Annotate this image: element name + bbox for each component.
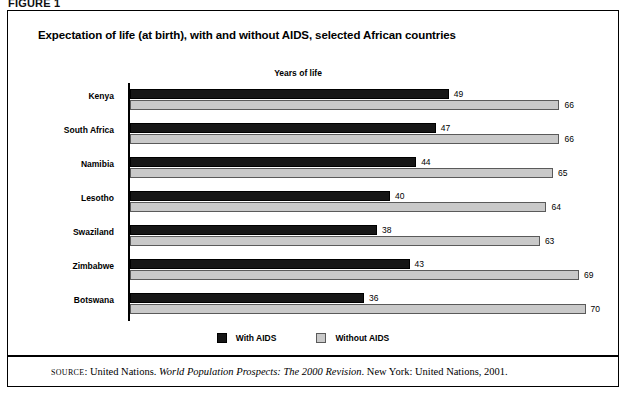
bar-row-with-aids: 38: [130, 225, 610, 235]
country-label: South Africa: [64, 125, 114, 135]
bar-row-without-aids: 65: [130, 168, 610, 178]
bar-value-label: 69: [584, 270, 593, 280]
bar-value-label: 66: [564, 134, 573, 144]
bar-value-label: 43: [415, 259, 424, 269]
source-publisher-lead: United Nations.: [90, 366, 159, 377]
country-bar-group: Swaziland3863: [128, 225, 608, 249]
bar-without-aids[interactable]: 65: [130, 168, 553, 178]
bar-without-aids[interactable]: 66: [130, 134, 560, 144]
bar-without-aids[interactable]: 66: [130, 100, 560, 110]
country-label: Kenya: [88, 91, 114, 101]
source-note: SOURCE: United Nations. World Population…: [51, 366, 508, 377]
bar-row-with-aids: 44: [130, 157, 610, 167]
source-label: SOURCE: [51, 368, 84, 377]
country-bar-group: Zimbabwe4369: [128, 259, 608, 283]
bar-row-with-aids: 49: [130, 89, 610, 99]
country-bar-group: South Africa4766: [128, 123, 608, 147]
bar-with-aids[interactable]: 40: [130, 191, 391, 201]
bar-row-without-aids: 64: [130, 202, 610, 212]
bar-row-without-aids: 70: [130, 304, 610, 314]
country-label: Namibia: [81, 159, 114, 169]
country-bar-group: Kenya4966: [128, 89, 608, 113]
legend-swatch-icon: [316, 333, 326, 343]
bar-value-label: 65: [558, 168, 567, 178]
bar-with-aids[interactable]: 36: [130, 293, 365, 303]
source-divider: [8, 355, 618, 357]
bar-row-without-aids: 69: [130, 270, 610, 280]
country-label: Swaziland: [73, 227, 114, 237]
figure-frame: Expectation of life (at birth), with and…: [7, 10, 619, 387]
bar-with-aids[interactable]: 47: [130, 123, 436, 133]
bar-with-aids[interactable]: 44: [130, 157, 417, 167]
legend-entry-with-aids[interactable]: With AIDS: [217, 333, 277, 343]
legend-entry-without-aids[interactable]: Without AIDS: [316, 333, 389, 343]
bar-with-aids[interactable]: 38: [130, 225, 378, 235]
bar-value-label: 36: [369, 293, 378, 303]
country-label: Zimbabwe: [72, 261, 114, 271]
bar-without-aids[interactable]: 64: [130, 202, 547, 212]
source-work-title: World Population Prospects: The 2000 Rev…: [159, 366, 362, 377]
country-bar-group: Botswana3670: [128, 293, 608, 317]
bar-row-with-aids: 36: [130, 293, 610, 303]
axis-caption: Years of life: [0, 68, 603, 78]
legend-swatch-icon: [217, 333, 227, 343]
bar-without-aids[interactable]: 69: [130, 270, 579, 280]
chart-title: Expectation of life (at birth), with and…: [38, 29, 456, 41]
bar-value-label: 64: [551, 202, 560, 212]
bar-row-without-aids: 66: [130, 134, 610, 144]
bar-row-with-aids: 40: [130, 191, 610, 201]
figure-number-label: FIGURE 1: [8, 0, 60, 9]
bar-value-label: 70: [591, 304, 600, 314]
bar-value-label: 38: [382, 225, 391, 235]
chart-plot-area: Kenya4966South Africa4766Namibia4465Leso…: [128, 83, 608, 321]
legend-label: With AIDS: [236, 333, 277, 343]
chart-legend: With AIDSWithout AIDS: [0, 333, 608, 343]
bar-without-aids[interactable]: 70: [130, 304, 586, 314]
bar-row-with-aids: 47: [130, 123, 610, 133]
bar-row-without-aids: 63: [130, 236, 610, 246]
bar-value-label: 49: [454, 89, 463, 99]
country-bar-group: Lesotho4064: [128, 191, 608, 215]
source-tail: . New York: United Nations, 2001.: [362, 366, 508, 377]
country-label: Botswana: [74, 295, 114, 305]
bar-with-aids[interactable]: 49: [130, 89, 449, 99]
bar-value-label: 47: [441, 123, 450, 133]
bar-row-without-aids: 66: [130, 100, 610, 110]
bar-value-label: 40: [395, 191, 404, 201]
country-label: Lesotho: [81, 193, 114, 203]
legend-label: Without AIDS: [335, 333, 389, 343]
bar-with-aids[interactable]: 43: [130, 259, 410, 269]
bar-value-label: 66: [564, 100, 573, 110]
bar-value-label: 63: [545, 236, 554, 246]
bar-without-aids[interactable]: 63: [130, 236, 540, 246]
bar-row-with-aids: 43: [130, 259, 610, 269]
bar-value-label: 44: [421, 157, 430, 167]
country-bar-group: Namibia4465: [128, 157, 608, 181]
